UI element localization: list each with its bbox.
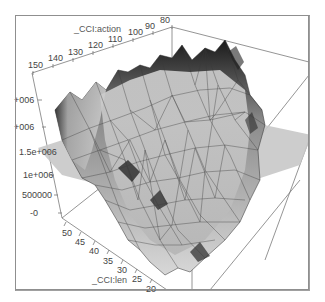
z-tick-2e6: +006: [14, 122, 34, 132]
x-tick-100: 100: [128, 27, 143, 37]
x-axis-action: 150 140 130 120 110 100 90 80 _CCI:actio…: [28, 15, 172, 75]
z-tick-500000: 500000: [22, 190, 52, 200]
y-tick-30: 30: [117, 265, 127, 275]
z-tick-0: -0: [30, 208, 38, 218]
z-tick-1.5e6: 1.5e+006: [19, 147, 57, 157]
y-tick-50: 50: [62, 228, 72, 238]
surface-plot[interactable]: 150 140 130 120 110 100 90 80 _CCI:actio…: [0, 0, 325, 302]
x-tick-90: 90: [145, 21, 155, 31]
x-tick-140: 140: [48, 53, 63, 63]
x-tick-120: 120: [88, 40, 103, 50]
y-tick-45: 45: [75, 237, 85, 247]
z-tick-1e6: 1e+006: [23, 170, 53, 180]
x-tick-150: 150: [28, 60, 43, 70]
y-tick-25: 25: [132, 274, 142, 284]
z-axis: +006 +006 1.5e+006 1e+006 500000 -0: [14, 95, 62, 218]
x-tick-110: 110: [108, 34, 122, 44]
x-tick-80: 80: [160, 15, 170, 25]
y-tick-35: 35: [103, 256, 113, 266]
x-tick-130: 130: [68, 47, 83, 57]
y-tick-40: 40: [89, 246, 99, 256]
y-axis-title: _CCI:len: [91, 275, 127, 285]
x-axis-title: _CCI:action: [73, 24, 121, 34]
z-tick-2.5e6: +006: [14, 95, 34, 105]
